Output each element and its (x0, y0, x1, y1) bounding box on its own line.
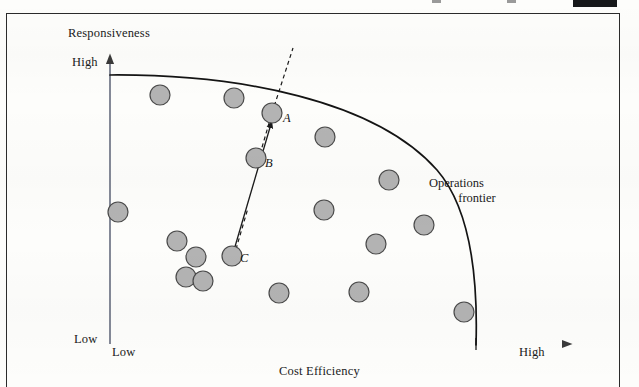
figure-page: Responsiveness High Low Low High Cost Ef… (0, 0, 639, 387)
firm-point (414, 215, 434, 235)
operations-frontier-curve (110, 75, 476, 345)
firm-point (186, 247, 206, 267)
x-axis (110, 338, 568, 350)
firm-points-group (108, 85, 474, 322)
x-axis-high-label: High (519, 345, 545, 360)
firm-point (224, 88, 244, 108)
firm-point (379, 170, 399, 190)
firm-point (167, 231, 187, 251)
y-axis-title: Responsiveness (68, 26, 150, 41)
x-axis-title: Cost Efficiency (279, 364, 360, 379)
firm-point (269, 283, 289, 303)
operations-frontier-label: Operations frontier (429, 176, 525, 206)
firm-point (349, 282, 369, 302)
firm-point-a (262, 103, 282, 123)
firm-point (314, 200, 334, 220)
firm-point (150, 85, 170, 105)
y-axis-low-label: Low (74, 332, 98, 347)
firm-point (454, 302, 474, 322)
firm-point (315, 127, 335, 147)
point-label-c: C (240, 251, 248, 266)
frontier-label-line-1: Operations (429, 176, 525, 191)
y-axis-high-label: High (72, 55, 98, 70)
frontier-label-line-2: frontier (429, 191, 525, 206)
firm-point-b (246, 148, 266, 168)
point-label-b: B (265, 156, 273, 171)
firm-point-c (222, 246, 242, 266)
point-label-a: A (283, 111, 291, 126)
x-axis-low-label: Low (112, 345, 136, 360)
firm-point (366, 234, 386, 254)
firm-point (108, 202, 128, 222)
firm-point (193, 271, 213, 291)
